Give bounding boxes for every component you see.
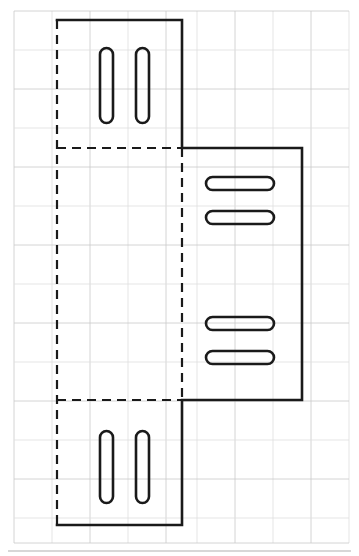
drawing-page	[0, 0, 359, 556]
page-background	[0, 0, 359, 556]
technical-drawing-canvas	[0, 0, 359, 556]
